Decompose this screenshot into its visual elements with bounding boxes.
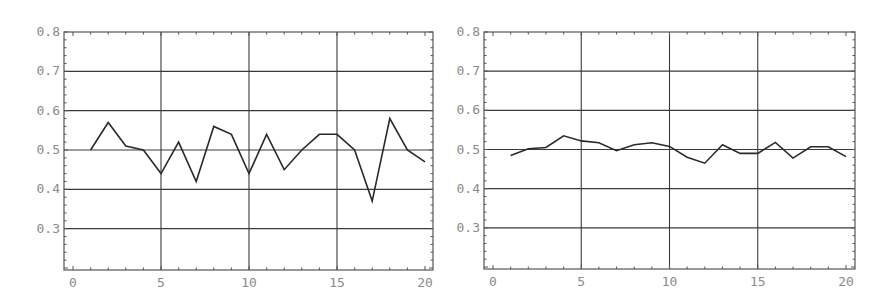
x-tick-label: 10 xyxy=(662,274,678,289)
chart-svg: 0.30.40.50.60.70.805101520 xyxy=(0,0,886,299)
x-tick-label: 20 xyxy=(838,274,854,289)
x-tick-label: 0 xyxy=(489,274,497,289)
right-chart: 0.30.40.50.60.70.805101520 xyxy=(0,0,886,299)
gridlines xyxy=(484,32,855,269)
y-tick-label: 0.4 xyxy=(457,181,481,196)
x-tick-label: 15 xyxy=(750,274,766,289)
y-tick-label: 0.3 xyxy=(457,220,480,235)
y-tick-label: 0.7 xyxy=(457,63,480,78)
x-tick-label: 5 xyxy=(577,274,585,289)
y-tick-label: 0.8 xyxy=(457,24,480,39)
y-tick-label: 0.5 xyxy=(457,142,480,157)
y-tick-label: 0.6 xyxy=(457,102,480,117)
